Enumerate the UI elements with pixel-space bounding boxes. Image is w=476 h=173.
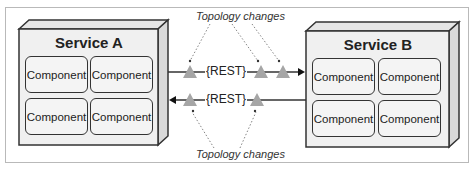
service-b-title: Service B: [308, 36, 448, 53]
rest-label-bottom: {REST}: [205, 92, 247, 106]
topology-changes-top-annotation: Topology changes: [196, 10, 285, 22]
arrowhead-right-icon: [298, 68, 305, 76]
arrowhead-left-icon: [169, 96, 176, 104]
service-b-component: Component: [378, 58, 441, 95]
service-b-component: Component: [312, 100, 375, 137]
topology-changes-bottom-annotation: Topology changes: [196, 148, 285, 160]
service-a-title: Service A: [19, 34, 159, 51]
service-b-component: Component: [312, 58, 375, 95]
service-a-component: Component: [25, 56, 88, 93]
annotation-leader-lines: [190, 24, 279, 148]
service-a-component: Component: [25, 98, 88, 135]
rest-label-top: {REST}: [205, 64, 247, 78]
service-a-component: Component: [90, 98, 153, 135]
service-b-component: Component: [378, 100, 441, 137]
service-a-component: Component: [90, 56, 153, 93]
